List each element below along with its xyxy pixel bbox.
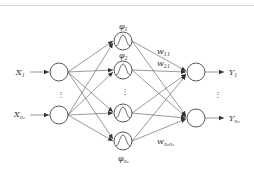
- hidden-node-1: [114, 32, 132, 50]
- hidden-output-edges: [132, 41, 186, 141]
- weight-labels: w11 w21 wn₂n₁: [157, 47, 174, 147]
- hidden-node-2: [114, 61, 132, 79]
- output-layer: ⋮ Y1 Yn₃: [187, 63, 240, 127]
- output-label-n3: Yn₃: [229, 114, 240, 124]
- output-label-1: Y1: [229, 68, 237, 78]
- hidden-node-n2: [114, 132, 132, 150]
- hidden-ellipsis: ⋮: [121, 87, 129, 96]
- input-arrows: [30, 72, 49, 115]
- input-node-1: [50, 63, 68, 81]
- input-label-1: X1: [15, 68, 25, 78]
- hidden-label-n2: φn₂: [118, 154, 129, 164]
- input-hidden-edges: [68, 41, 113, 141]
- weight-label-n2n1: wn₂n₁: [157, 137, 174, 147]
- weight-label-11: w11: [157, 47, 170, 57]
- hidden-node-3: [114, 104, 132, 122]
- output-node-n3: [187, 109, 205, 127]
- input-label-n1: Xn₁: [13, 110, 25, 120]
- input-ellipsis: ⋮: [57, 90, 65, 99]
- output-node-1: [187, 63, 205, 81]
- hidden-label-1: φ1: [119, 22, 128, 32]
- hidden-layer: ⋮ φ1 φ2 φn₂: [114, 22, 132, 164]
- rbf-network-diagram: ⋮ X1 Xn₁ ⋮ φ1 φ2: [0, 0, 254, 175]
- weight-label-21: w21: [157, 59, 170, 69]
- output-ellipsis: ⋮: [214, 90, 222, 99]
- hidden-label-2: φ2: [119, 51, 128, 61]
- input-node-n1: [50, 106, 68, 124]
